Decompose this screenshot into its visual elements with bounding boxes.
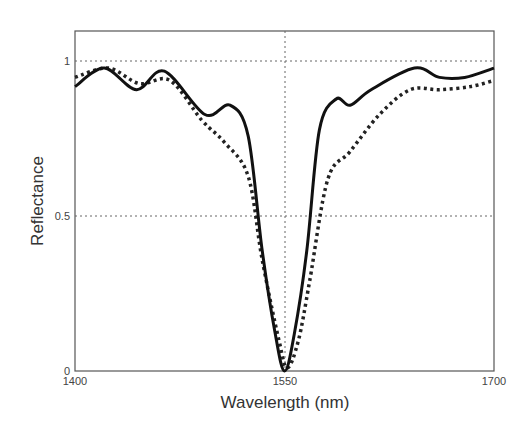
ytick-label-0.5: 0.5: [55, 210, 70, 222]
xtick-label-1400: 1400: [63, 375, 87, 387]
reflectance-chart: 1 0.5 0 1400 1550 1700 Wavelength (nm) R…: [0, 0, 528, 431]
x-axis-label: Wavelength (nm): [221, 393, 350, 412]
y-axis-label: Reflectance: [28, 156, 47, 246]
xtick-label-1700: 1700: [482, 375, 506, 387]
ytick-label-1: 1: [64, 55, 70, 67]
xtick-label-1550: 1550: [273, 375, 297, 387]
